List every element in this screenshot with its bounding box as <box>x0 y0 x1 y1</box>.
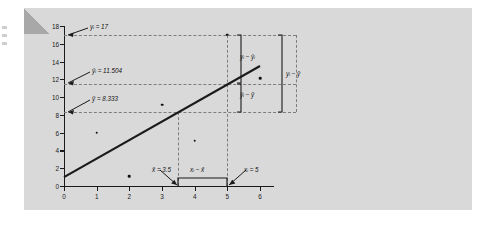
annotation-x-mean: x̄ = 3.5 <box>152 167 171 173</box>
plot-area: 0 2 4 6 8 10 12 14 16 18 0 1 2 <box>64 26 260 186</box>
x-tick-label: 2 <box>128 193 132 200</box>
page-edge-marks <box>2 26 10 50</box>
corner-decoration <box>24 8 50 34</box>
y-tick-label: 8 <box>55 111 59 118</box>
y-tick-label: 12 <box>52 76 59 83</box>
data-point <box>193 139 196 142</box>
edge-mark <box>2 42 7 45</box>
y-tick-label: 0 <box>55 183 59 190</box>
y-tick-label: 16 <box>52 40 59 47</box>
x-tick-label: 5 <box>226 193 230 200</box>
annotation-explained-deviation: ŷᵢ − ȳ <box>240 92 254 98</box>
data-point <box>161 104 164 107</box>
x-tick-label: 0 <box>62 193 66 200</box>
data-point <box>226 34 229 37</box>
bracket-residual-group <box>234 26 260 126</box>
y-tick-label: 10 <box>52 94 59 101</box>
chart-panel: 0 2 4 6 8 10 12 14 16 18 0 1 2 <box>24 8 472 210</box>
x-tick-label: 1 <box>95 193 99 200</box>
data-point <box>95 131 98 134</box>
x-tick-label: 3 <box>160 193 164 200</box>
annotation-y-mean: ȳ = 8.333 <box>92 96 118 102</box>
x-tick-label: 4 <box>193 193 197 200</box>
y-tick-label: 18 <box>52 23 59 30</box>
annotation-y-fitted: ŷᵢ = 11.504 <box>92 68 122 74</box>
annotation-total-deviation: yᵢ − ȳ <box>286 71 300 77</box>
annotation-x-deviation: xᵢ − x̄ <box>190 167 204 173</box>
y-tick-label: 14 <box>52 58 59 65</box>
y-tick-label: 2 <box>55 165 59 172</box>
edge-mark <box>2 34 7 37</box>
annotation-x-observed: xᵢ = 5 <box>244 167 259 173</box>
annotation-residual: yᵢ − ŷᵢ <box>240 54 255 60</box>
y-tick-label: 6 <box>55 129 59 136</box>
annotation-y-observed: yᵢ = 17 <box>90 24 108 30</box>
figure-page: 0 2 4 6 8 10 12 14 16 18 0 1 2 <box>0 0 496 226</box>
y-tick-label: 4 <box>55 147 59 154</box>
x-tick-label: 6 <box>258 193 262 200</box>
data-point <box>128 175 131 178</box>
edge-mark <box>2 26 7 29</box>
